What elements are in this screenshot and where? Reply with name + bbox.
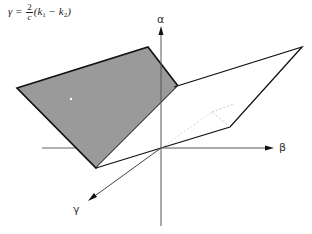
point-marker [70, 98, 72, 100]
gamma-label: γ [73, 203, 80, 216]
alpha-label: α [157, 13, 164, 26]
plane-diagram [0, 0, 312, 234]
beta-label: β [279, 141, 286, 154]
beta-arrow-icon [265, 146, 274, 151]
gamma-arrow-icon [88, 193, 97, 201]
alpha-arrow-icon [159, 26, 164, 35]
